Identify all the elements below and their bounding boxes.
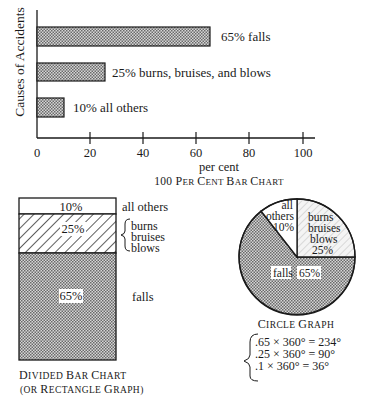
svg-text:40: 40: [137, 146, 150, 160]
bar-all-others: [37, 98, 64, 117]
bar-falls: [37, 27, 210, 46]
label-falls: falls: [132, 290, 154, 304]
svg-text:20: 20: [84, 146, 97, 160]
segment-falls: [19, 253, 116, 360]
svg-text:0: 0: [34, 146, 40, 160]
segment-text-falls: 65%: [60, 289, 83, 303]
divided-bar-chart: 10% 25% 65% all others burns bruises blo…: [19, 198, 168, 396]
pie-label-falls-pct: 65%: [299, 267, 321, 279]
title-er: ER: [183, 177, 198, 187]
x-axis-tick-labels: 0 20 40 60 80 100: [34, 146, 313, 160]
pie-label-others-pct: 10%: [273, 221, 295, 233]
x-axis-label: per cent: [199, 160, 239, 174]
label-all-others: all others: [122, 200, 168, 214]
bar-label-falls: 65% falls: [221, 29, 270, 44]
bar-burns-bruises-blows: [37, 63, 105, 81]
bar-label-others: 10% all others: [73, 100, 148, 115]
segment-text-others: 10%: [60, 200, 83, 214]
y-axis-label: Causes of Accidents: [12, 7, 27, 116]
svg-text:80: 80: [243, 146, 256, 160]
label-blows: blows: [131, 241, 160, 255]
circle-graph-title: CIRCLE GRAPH: [258, 317, 335, 331]
svg-text:100: 100: [294, 146, 313, 160]
formula-others: .1 × 360° = 36°: [255, 359, 329, 373]
divided-bar-subtitle: (OR RECTANGLE GRAPH): [20, 382, 144, 396]
segment-text-bbb: 25%: [62, 222, 85, 236]
circle-graph: all others 10% burns bruises blows 25% f…: [239, 199, 355, 381]
figure-canvas: Causes of Accidents 0 20 40 60 80 100 65…: [0, 0, 373, 408]
bar-chart-title: 100 PER CENT BAR CHART: [154, 174, 284, 188]
bar-label-burns: 25% burns, bruises, and blows: [112, 65, 271, 80]
brace-icon: [121, 219, 130, 251]
title-p: P: [176, 174, 183, 188]
divided-bar-title: DIVIDED BAR CHART: [19, 368, 126, 382]
svg-text:60: 60: [190, 146, 203, 160]
pie-label-bbb-pct: 25%: [312, 244, 334, 256]
percent-bar-chart: Causes of Accidents 0 20 40 60 80 100 65…: [12, 7, 315, 188]
pie-label-falls: falls: [273, 267, 293, 279]
